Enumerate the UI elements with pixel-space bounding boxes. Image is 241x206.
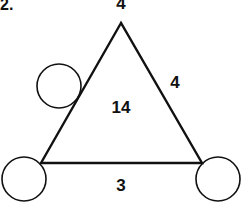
circle-bottom-right[interactable] <box>196 157 240 201</box>
circle-bottom-left[interactable] <box>2 157 46 201</box>
triangle-puzzle-svg: 2. 4 4 14 3 <box>0 0 241 206</box>
bottom-side-label: 3 <box>116 176 125 195</box>
right-side-label: 4 <box>170 73 180 92</box>
problem-number-label: 2. <box>0 0 13 13</box>
center-label: 14 <box>112 98 131 117</box>
puzzle-diagram: 2. 4 4 14 3 <box>0 0 241 206</box>
circle-upper-left[interactable] <box>37 64 81 108</box>
top-vertex-label: 4 <box>116 0 126 13</box>
triangle-shape <box>41 23 202 163</box>
